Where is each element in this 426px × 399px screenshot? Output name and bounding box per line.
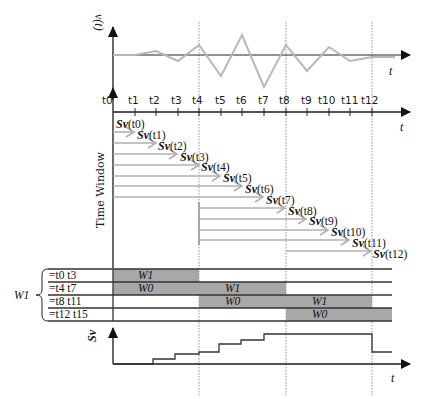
tick-label: t3 (171, 94, 182, 106)
window-table: W1 =t0 t3 =t4 t7 =t8 t11 =t12 t15 W1 W0 … (14, 269, 392, 321)
row-label: =t0 t3 (49, 269, 77, 281)
tick-label: t0 (102, 94, 113, 106)
signal-waveform (113, 35, 395, 87)
tick-label: t8 (279, 94, 290, 106)
time-window-label: Time Window (94, 151, 107, 228)
sliding-window-diagram: v(t) t t0 t1 t2 t3 t4 t5 t6 t7 t8 t9 t (0, 0, 426, 399)
tick-label: t4 (192, 94, 203, 106)
block-w0 (199, 295, 286, 308)
tick-label: t1 (128, 94, 139, 106)
row-label: =t12 t15 (49, 308, 88, 320)
tick-label: t11 (341, 94, 358, 106)
block-label: W0 (312, 308, 328, 320)
signal-chart: v(t) t (92, 14, 410, 100)
sv-label: Sv(t12) (373, 247, 408, 261)
block-w1 (113, 269, 199, 282)
block-label: W1 (138, 269, 153, 281)
block-label: W1 (225, 282, 240, 294)
block-label: W0 (225, 295, 241, 307)
tick-label: t12 (361, 94, 378, 106)
block-label: W1 (312, 295, 327, 307)
block-label: W0 (138, 282, 154, 294)
row-label: =t4 t7 (49, 282, 77, 294)
tick-label: t10 (318, 94, 335, 106)
block-w1 (286, 295, 372, 308)
sv-step-line (113, 334, 392, 364)
signal-t-label: t (389, 64, 393, 78)
brace-icon (36, 269, 48, 321)
tick-label: t2 (149, 94, 160, 106)
block-w1 (199, 282, 286, 295)
tick-label: t9 (301, 94, 312, 106)
group-label: W1 (14, 289, 29, 301)
row-label: =t8 t11 (49, 295, 82, 307)
block-w0 (286, 308, 392, 321)
sv-axis-label: Sv (85, 329, 99, 342)
tick-label: t7 (258, 94, 269, 106)
sv-t-label: t (391, 371, 395, 385)
block-w0 (113, 282, 199, 295)
tick-label: t5 (215, 94, 226, 106)
time-t-label: t (400, 120, 404, 134)
time-window-section: Time Window Sv(t0) Sv(t1) Sv(t2) Sv(t3) … (94, 112, 408, 268)
tick-label: t6 (236, 94, 247, 106)
v-axis-label: v(t) (92, 14, 106, 31)
sv-step-chart: Sv t (85, 328, 410, 385)
